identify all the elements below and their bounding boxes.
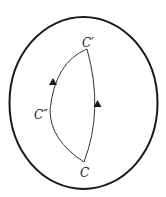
arrow-up-icon (49, 78, 57, 85)
right-path (84, 49, 95, 162)
label-c-double-prime: C″ (34, 108, 48, 122)
label-c: C (80, 166, 89, 180)
label-c-prime: C′ (82, 36, 94, 50)
left-path (50, 49, 87, 162)
diagram-canvas: C′ C″ C (0, 0, 166, 197)
